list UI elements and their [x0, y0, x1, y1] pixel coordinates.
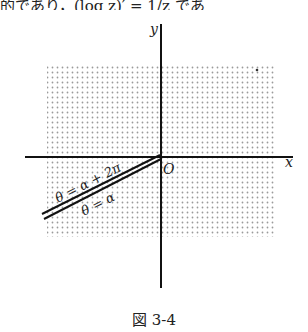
complex-plane-diagram: y x O θ = α + 2π θ = α — [0, 0, 308, 332]
y-axis-label: y — [149, 21, 159, 37]
figure-caption: 図 3-4 — [0, 308, 308, 329]
x-axis-label: x — [285, 154, 293, 170]
dot-mark — [256, 69, 259, 72]
origin-label: O — [163, 161, 175, 177]
